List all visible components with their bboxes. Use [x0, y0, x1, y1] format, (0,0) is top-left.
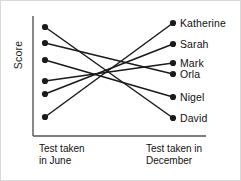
series-label-david: David — [180, 113, 207, 124]
series-label-nigel: Nigel — [180, 92, 204, 103]
data-point-december-nigel — [170, 94, 176, 100]
data-point-december-david — [170, 115, 176, 121]
x-axis-label-december-line1: Test taken in — [146, 143, 202, 155]
series-label-katherine: Katherine — [180, 18, 226, 29]
data-point-december-orla — [170, 71, 176, 77]
series-label-sarah: Sarah — [180, 39, 209, 50]
slope-chart: Score Katherine Sarah Mark Orla Nigel Da… — [0, 0, 241, 181]
x-axis-label-december-line2: December — [146, 155, 202, 167]
data-point-june-5 — [42, 91, 48, 97]
series-line-david — [45, 27, 173, 118]
data-point-june-1 — [42, 24, 48, 30]
data-point-june-2 — [42, 40, 48, 46]
data-point-december-sarah — [170, 41, 176, 47]
data-point-june-3 — [42, 57, 48, 63]
data-point-june-6 — [42, 114, 48, 120]
data-point-december-katherine — [170, 20, 176, 26]
x-axis-label-june-line1: Test taken — [39, 143, 85, 155]
series-label-orla: Orla — [180, 69, 200, 80]
data-point-june-4 — [42, 78, 48, 84]
x-axis-label-june: Test taken in June — [39, 143, 85, 167]
data-point-december-mark — [170, 60, 176, 66]
x-axis-label-december: Test taken in December — [146, 143, 202, 167]
series-label-mark: Mark — [180, 58, 204, 69]
x-axis-label-june-line2: in June — [39, 155, 85, 167]
